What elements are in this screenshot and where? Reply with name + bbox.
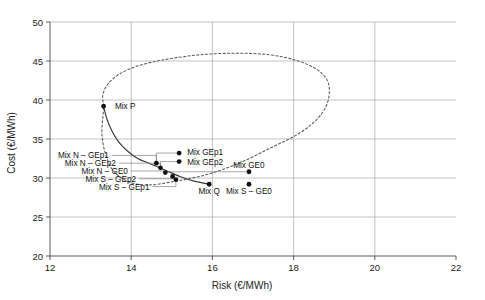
risk-cost-scatter-chart: Mix PMix N – GEp1Mix N – GEp2Mix N – GE0… <box>0 0 485 300</box>
y-tick-label: 45 <box>32 56 43 67</box>
y-tick-label: 40 <box>32 95 43 106</box>
y-axis-ticks: 20253035404550 <box>32 17 50 262</box>
data-point-marker <box>177 159 182 164</box>
y-tick-label: 30 <box>32 173 43 184</box>
point-label: Mix S – GE0 <box>226 187 272 196</box>
y-tick-label: 20 <box>32 251 43 262</box>
data-point-marker <box>163 170 168 175</box>
y-tick-label: 35 <box>32 134 43 145</box>
chart-container: Mix PMix N – GEp1Mix N – GEp2Mix N – GE0… <box>0 0 485 300</box>
mix-ge0-connector <box>165 172 249 173</box>
y-tick-label: 50 <box>32 17 43 28</box>
y-axis-title: Cost (€/MWh) <box>6 112 17 174</box>
leader-mix-s-gep2 <box>139 176 173 178</box>
grid-lines <box>50 22 456 256</box>
y-tick-label: 25 <box>32 212 43 223</box>
data-point-marker <box>173 177 178 182</box>
x-axis-title: Risk (€/MWh) <box>212 280 273 291</box>
point-label: Mix Q <box>198 187 219 196</box>
point-label: Mix GEp2 <box>187 158 223 167</box>
data-point-marker <box>158 165 163 170</box>
point-labels: Mix PMix N – GEp1Mix N – GEp2Mix N – GE0… <box>58 102 272 196</box>
point-label: Mix S – GEp1 <box>99 183 150 192</box>
data-point-marker <box>154 161 159 166</box>
point-label: Mix P <box>115 102 136 111</box>
x-tick-label: 12 <box>45 262 56 273</box>
point-label: Mix GE0 <box>233 161 265 170</box>
data-point-marker <box>177 151 182 156</box>
data-point-marker <box>207 182 212 187</box>
x-tick-label: 22 <box>451 262 462 273</box>
x-tick-label: 14 <box>126 262 137 273</box>
leader-mix-n-ge0 <box>131 171 165 173</box>
data-point-marker <box>101 104 106 109</box>
x-axis-ticks: 121416182022 <box>45 256 462 273</box>
x-tick-label: 16 <box>207 262 218 273</box>
x-tick-label: 18 <box>288 262 299 273</box>
data-point-marker <box>247 182 252 187</box>
point-label: Mix GEp1 <box>187 148 223 157</box>
x-tick-label: 20 <box>370 262 381 273</box>
mix-gep2-connector <box>160 162 179 168</box>
data-point-marker <box>247 169 252 174</box>
